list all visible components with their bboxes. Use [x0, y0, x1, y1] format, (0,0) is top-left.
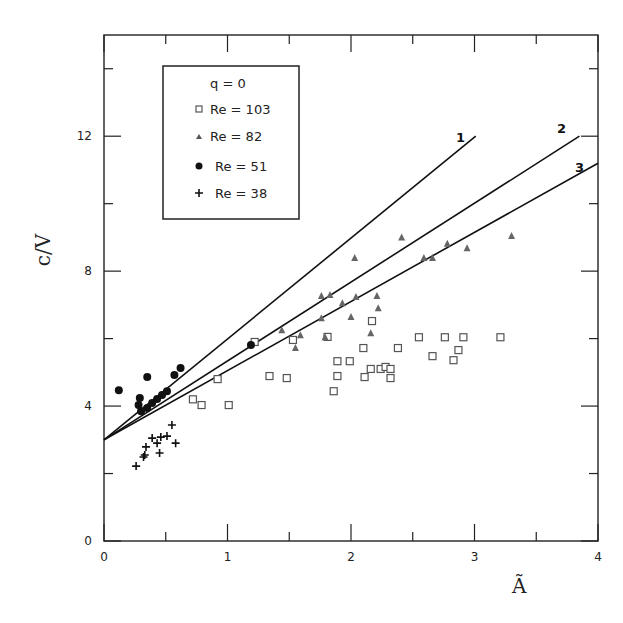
legend-entry-re38: Re = 38 [215, 186, 267, 201]
y-tick-label: 0 [84, 534, 92, 548]
x-tick-label: 1 [224, 550, 232, 564]
circle-marker-icon [196, 163, 203, 170]
x-tick-label: 0 [100, 550, 108, 564]
y-tick-label: 4 [84, 399, 92, 413]
legend-entry-re103: Re = 103 [210, 102, 270, 117]
legend-entry-re82: Re = 82 [210, 129, 262, 144]
legend-title: q = 0 [210, 76, 246, 91]
x-tick-label: 3 [471, 550, 479, 564]
x-tick-label: 4 [594, 550, 602, 564]
y-axis-title: c/V [31, 233, 55, 266]
series-circle [115, 341, 255, 415]
y-tick-label: 12 [77, 129, 92, 143]
x-axis-title: Ã [511, 574, 527, 598]
legend: q = 0 Re = 103 Re = 82 Re = 51 Re = 38 [163, 66, 299, 219]
series-plus [132, 421, 180, 470]
y-tick-label: 8 [84, 264, 92, 278]
x-tick-label: 2 [347, 550, 355, 564]
line-label-3: 3 [575, 160, 584, 175]
line-label-1: 1 [456, 130, 465, 145]
series-triangle [278, 232, 515, 351]
axis-ticks: 0123404812 [77, 35, 602, 564]
legend-entry-re51: Re = 51 [215, 159, 267, 174]
line-label-2: 2 [557, 121, 566, 136]
scatter-chart: 0123404812 Ã c/V q = 0 Re = 103 Re = 82 … [0, 0, 623, 623]
